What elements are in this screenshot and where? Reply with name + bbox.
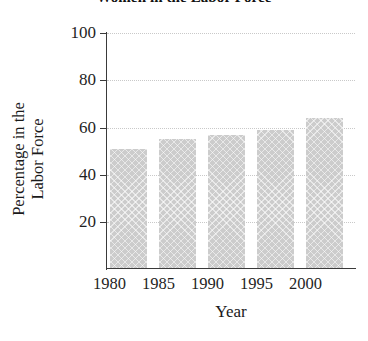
chart-title: Women in the Labor Force — [0, 0, 368, 6]
bar-2000 — [306, 118, 343, 269]
y-tick-label-40: 40 — [50, 166, 96, 183]
plot-area — [107, 33, 355, 269]
y-tick-label-80: 80 — [50, 71, 96, 88]
x-tick-label-2000: 2000 — [278, 274, 334, 293]
gridline-80 — [107, 80, 355, 81]
y-tick-label-60: 60 — [50, 119, 96, 136]
x-tick-label-1980: 1980 — [82, 274, 138, 293]
y-axis-title-line-2: Labor Force — [28, 59, 47, 259]
bar-1980 — [110, 149, 147, 269]
y-tick-label-100: 100 — [50, 24, 96, 41]
y-axis-title-line-1: Percentage in the — [9, 59, 28, 259]
x-axis-line — [106, 268, 356, 269]
gridline-100 — [107, 33, 355, 34]
bar-1985 — [159, 139, 196, 269]
x-axis-title: Year — [107, 302, 355, 322]
y-axis-title: Percentage in the Labor Force — [9, 59, 47, 259]
y-axis-line — [106, 32, 107, 270]
x-tick-label-1990: 1990 — [180, 274, 236, 293]
bar-1990 — [208, 135, 245, 270]
y-tick-60 — [100, 128, 107, 129]
y-tick-100 — [100, 33, 107, 34]
bar-1995 — [257, 130, 294, 269]
y-tick-20 — [100, 222, 107, 223]
x-tick-label-1985: 1985 — [131, 274, 187, 293]
y-tick-label-20: 20 — [50, 213, 96, 230]
x-tick-label-1995: 1995 — [229, 274, 285, 293]
y-tick-80 — [100, 80, 107, 81]
y-tick-40 — [100, 175, 107, 176]
bar-chart-figure: Women in the Labor Force 100 80 60 40 20… — [0, 0, 368, 341]
